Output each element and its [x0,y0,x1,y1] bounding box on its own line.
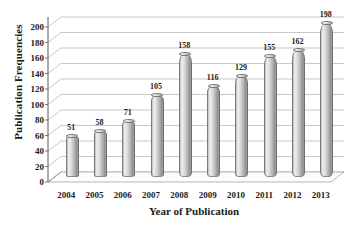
x-tick-label: 2012 [284,190,302,200]
bar [179,54,192,177]
bar [235,76,248,177]
bar-top-cap [179,52,191,56]
bar [94,131,107,177]
x-tick-label: 2004 [57,190,75,200]
x-tick-label: 2008 [170,190,188,200]
x-tick-label: 2013 [312,190,330,200]
bar-top-cap [264,54,276,58]
bar-top-cap [236,74,248,78]
x-tick-label: 2010 [227,190,245,200]
x-axis-title: Year of Publication [44,205,344,217]
bar-chart: 515871105158116129155162198 020406080100… [0,0,361,227]
bar-top-cap [123,119,135,123]
bar [207,86,220,177]
bar-top-cap [293,48,305,52]
x-axis-tick-labels: 2004200520062007200820092010201120122013 [0,190,361,204]
y-tick-label: 20 [16,162,44,171]
bar [66,136,79,177]
x-tick-label: 2006 [114,190,132,200]
bar-top-cap [321,21,333,25]
x-tick-label: 2011 [255,190,273,200]
bar-top-cap [151,93,163,97]
bar [264,56,277,177]
bar [122,121,135,177]
bar-top-cap [208,84,220,88]
x-tick-label: 2009 [199,190,217,200]
bar [151,95,164,177]
y-tick-label: 0 [16,178,44,187]
bar-top-cap [66,134,78,138]
bar [292,50,305,177]
bar-top-cap [94,129,106,133]
bar [320,23,333,177]
x-tick-label: 2005 [85,190,103,200]
x-tick-label: 2007 [142,190,160,200]
y-axis-title: Publication Frequencies [12,12,24,152]
